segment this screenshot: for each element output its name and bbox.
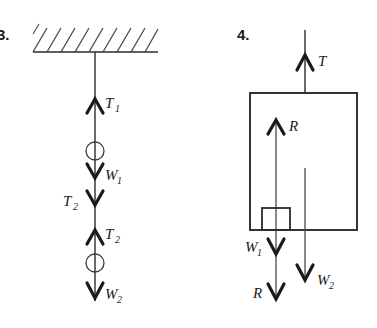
figure-number-4: 4. — [237, 26, 250, 43]
ceiling-hatching — [33, 24, 158, 52]
force-arrow-R-up: R — [268, 118, 298, 134]
hatch-mark — [89, 28, 103, 52]
force-arrow-T: T — [297, 53, 328, 70]
force-label-T: T — [318, 53, 328, 69]
force-label-W1-sub: 1 — [117, 175, 122, 186]
force-label-T2b-sub: 2 — [115, 234, 120, 245]
force-label-T1-sub: 1 — [115, 103, 120, 114]
force-label-T2a-base: T — [63, 193, 73, 209]
hatch-mark — [131, 28, 145, 52]
force-arrow-W2-lift: W 2 — [297, 265, 334, 291]
force-label-R-up: R — [288, 118, 298, 134]
hatch-mark-short — [33, 24, 39, 34]
physics-diagram-svg: 3. T 1 — [0, 0, 377, 328]
force-label-W2-sub: 2 — [117, 294, 122, 305]
force-label-W1b-sub: 1 — [257, 247, 262, 258]
force-arrow-T2-up: T 2 — [87, 226, 120, 245]
figure-number-3: 3. — [0, 26, 10, 43]
outer-box-lift — [250, 93, 357, 230]
force-arrow-W1-lift: W 1 — [245, 239, 284, 258]
force-label-T2a-sub: 2 — [73, 201, 78, 212]
force-arrow-T1: T 1 — [87, 95, 120, 114]
hatch-mark — [33, 28, 47, 52]
force-arrow-W1: W 1 — [87, 164, 122, 186]
hatch-mark — [117, 28, 131, 52]
diagram-3-group: 3. T 1 — [0, 24, 158, 305]
hatch-mark — [75, 28, 89, 52]
hatch-mark — [145, 29, 158, 52]
figure-canvas: 3. T 1 — [0, 0, 377, 328]
hatch-mark — [103, 28, 117, 52]
diagram-4-group: 4. T R W — [237, 26, 357, 301]
force-arrow-T2-down: T 2 — [63, 191, 103, 212]
force-label-W2b-sub: 2 — [329, 280, 334, 291]
force-arrow-R-down: R — [252, 284, 284, 301]
force-label-T1-base: T — [105, 95, 115, 111]
hatch-mark — [61, 28, 75, 52]
hatch-mark — [47, 28, 61, 52]
force-label-T2b-base: T — [105, 226, 115, 242]
force-arrow-W2: W 2 — [87, 283, 122, 305]
force-label-R-down: R — [252, 285, 262, 301]
